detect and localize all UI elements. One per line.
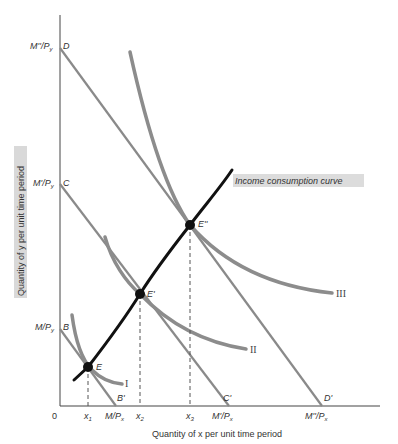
- x-axis-title: Quantity of x per unit time period: [152, 429, 282, 439]
- origin-label: 0: [52, 411, 57, 421]
- tick-x3: x3: [185, 411, 195, 422]
- income-consumption-diagram: Income consumption curve E E' E'' I II I…: [0, 0, 398, 444]
- x-value-m-px: M/Px: [105, 411, 125, 422]
- tick-x1: x1: [83, 411, 92, 422]
- label-curve-i: I: [125, 378, 128, 389]
- label-point-c: C: [63, 178, 70, 188]
- equilibrium-point-e-prime: [135, 289, 145, 299]
- tick-x2: x2: [135, 411, 145, 422]
- label-point-c-prime: C': [223, 393, 231, 403]
- label-curve-ii: II: [250, 344, 257, 355]
- y-value-m-prime-py: M'/Py: [33, 178, 55, 189]
- income-consumption-curve: [74, 170, 232, 380]
- label-e: E: [96, 362, 103, 372]
- y-axis-title: Quantity of y per unit time period: [16, 166, 26, 296]
- y-value-m-double-prime-py: M''/Py: [30, 41, 53, 52]
- label-e-double-prime: E'': [198, 219, 208, 229]
- y-value-m-py: M/Py: [35, 322, 55, 333]
- indifference-curve-ii: [105, 237, 246, 349]
- equilibrium-point-e-double-prime: [185, 220, 195, 230]
- x-value-m-prime-px: M'/Px: [212, 411, 234, 422]
- label-point-b-prime: B': [117, 393, 125, 403]
- x-value-m-double-prime-px: M''/Px: [305, 411, 328, 422]
- label-point-b: B: [63, 322, 69, 332]
- label-point-d: D: [63, 41, 70, 51]
- label-e-prime: E': [147, 289, 155, 299]
- equilibrium-point-e: [83, 362, 93, 372]
- label-point-d-prime: D': [324, 393, 332, 403]
- label-curve-iii: III: [336, 288, 346, 299]
- icc-label: Income consumption curve: [235, 176, 343, 186]
